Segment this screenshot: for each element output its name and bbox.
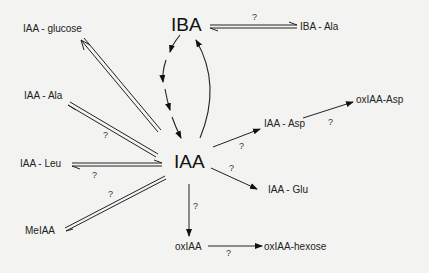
node-iaa-ala: IAA - Ala: [24, 90, 62, 101]
edge-iaa-iaa-glucose: [81, 38, 161, 132]
node-iaa-glu: IAA - Glu: [268, 184, 308, 195]
node-iaa-asp: IAA - Asp: [264, 118, 305, 129]
edge-label-iaa-leu: ?: [92, 170, 97, 180]
edge-label-iaa-glu: ?: [229, 163, 234, 173]
edge-iba-iaa: [163, 35, 181, 138]
node-iaa: IAA: [174, 151, 205, 173]
node-iaa-glucose: IAA - glucose: [23, 23, 82, 34]
edge-label-iba-ala: ?: [252, 12, 257, 22]
edge-label-oxiaa-hexose: ?: [226, 248, 231, 258]
edge-iaa-iba: [196, 40, 210, 138]
node-oxiaa-hexose: oxIAA-hexose: [264, 241, 326, 252]
edge-label-iaa-ala: ?: [103, 130, 108, 140]
edge-iaa-iaa-asp: [213, 129, 260, 147]
edge-iaa-meiaa: [65, 176, 166, 231]
node-iba-ala: IBA - Ala: [300, 21, 338, 32]
node-iba: IBA: [171, 14, 202, 36]
edge-iaa-iaa-leu: [72, 160, 162, 169]
node-oxiaa-asp: oxIAA-Asp: [356, 94, 403, 105]
pathway-arrows: [0, 0, 429, 273]
edge-label-meiaa: ?: [108, 189, 113, 199]
edge-iba-iba-ala: [210, 22, 297, 31]
edge-label-oxiaa: ?: [193, 201, 198, 211]
node-iaa-leu: IAA - Leu: [20, 158, 61, 169]
edge-label-oxiaa-asp: ?: [328, 117, 333, 127]
edge-label-iaa-asp: ?: [239, 141, 244, 151]
edge-iaa-asp-oxiaa-asp: [303, 102, 353, 118]
node-oxiaa: oxIAA: [175, 241, 202, 252]
node-meiaa: MeIAA: [25, 225, 55, 236]
